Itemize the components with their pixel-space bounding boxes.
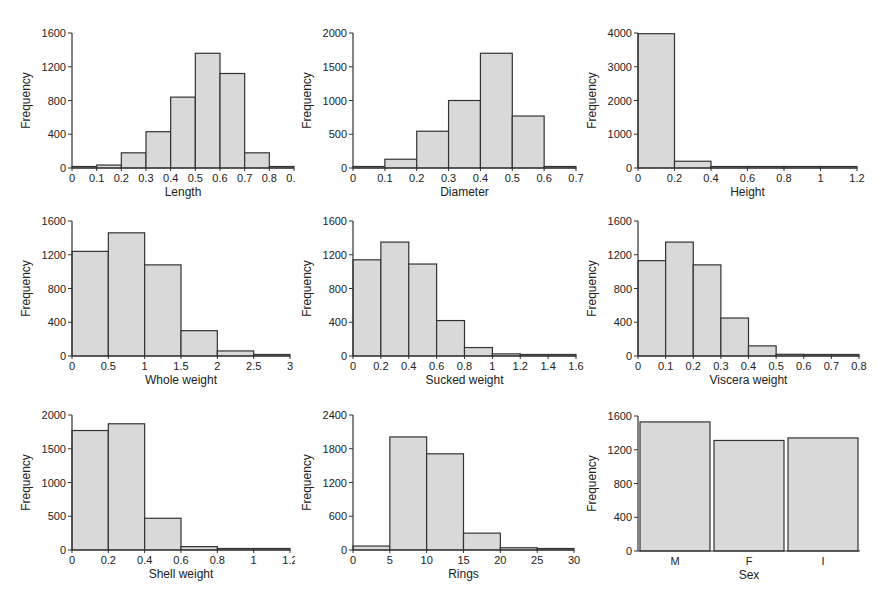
x-tick-label: 0.8 [210, 554, 225, 566]
x-tick-label: 0.2 [409, 172, 424, 184]
x-tick-label: 0.6 [536, 172, 551, 184]
histogram-bar [108, 424, 144, 550]
x-tick-label: 0.8 [457, 360, 472, 372]
x-tick-label: 0.4 [703, 172, 718, 184]
histogram-bar [390, 437, 427, 550]
y-tick-label: 1600 [323, 215, 347, 227]
chart-length: 04008001200160000.10.20.30.40.50.60.70.8… [0, 0, 295, 200]
bars [72, 53, 294, 168]
x-axis-label: Shell weight [149, 567, 214, 581]
y-tick-label: 1000 [608, 128, 632, 140]
x-tick-label: M [670, 555, 679, 567]
histogram-bar [464, 533, 501, 550]
y-tick-label: 1800 [323, 443, 347, 455]
x-tick-label: 0 [350, 554, 356, 566]
bars [638, 242, 859, 356]
x-tick-label: 0 [69, 360, 75, 372]
y-tick-label: 500 [48, 510, 66, 522]
y-tick-label: 400 [614, 511, 632, 523]
y-axis-label: Frequency [585, 455, 599, 512]
bars [353, 53, 576, 168]
y-tick-label: 400 [614, 316, 632, 328]
y-tick-label: 0 [626, 545, 632, 557]
x-tick-label: 0.8 [262, 172, 277, 184]
y-tick-label: 1000 [323, 95, 347, 107]
histogram-bar [721, 318, 749, 356]
x-axis-label: Sucked weight [425, 373, 504, 387]
x-tick-label: 0.2 [667, 172, 682, 184]
bars [353, 437, 574, 550]
y-tick-label: 2000 [42, 409, 66, 421]
y-tick-label: 2000 [608, 95, 632, 107]
y-tick-label: 1200 [323, 249, 347, 261]
histogram-bar [638, 261, 666, 356]
x-tick-label: 25 [531, 554, 543, 566]
histogram-bar [72, 431, 108, 550]
histogram-bar [749, 346, 777, 356]
x-tick-label: 0.6 [796, 360, 811, 372]
bars [640, 422, 858, 551]
x-tick-label: 1 [142, 360, 148, 372]
histogram-bar [427, 454, 464, 550]
x-axis-label: Sex [739, 568, 760, 582]
histogram-bar [171, 97, 196, 168]
y-tick-label: 1200 [608, 249, 632, 261]
y-axis-label: Frequency [19, 72, 33, 129]
x-axis-label: Whole weight [145, 373, 218, 387]
x-tick-label: 0.1 [658, 360, 673, 372]
histogram-bar [480, 53, 512, 168]
bars [353, 242, 576, 356]
x-tick-label: 0.7 [824, 360, 839, 372]
bar-I [788, 438, 858, 551]
x-tick-label: I [821, 555, 824, 567]
y-tick-label: 0 [60, 162, 66, 174]
y-tick-label: 500 [329, 128, 347, 140]
histogram-bar [385, 159, 417, 168]
x-tick-label: 0.4 [137, 554, 152, 566]
y-tick-label: 0 [60, 350, 66, 362]
histogram-bar [195, 53, 220, 168]
x-tick-label: 0.5 [768, 360, 783, 372]
x-tick-label: 1.2 [849, 172, 864, 184]
y-tick-label: 0 [626, 350, 632, 362]
x-tick-label: 30 [568, 554, 580, 566]
chart-rings: 0600120018002400051015202530RingsFrequen… [290, 400, 585, 600]
x-tick-label: 15 [457, 554, 469, 566]
x-tick-label: 0.6 [429, 360, 444, 372]
x-tick-label: 0.1 [89, 172, 104, 184]
y-tick-label: 3000 [608, 61, 632, 73]
x-tick-label: 1 [251, 554, 257, 566]
x-tick-label: 0 [635, 360, 641, 372]
chart-height: 0100020003000400000.20.40.60.811.2Height… [580, 0, 875, 200]
chart-whole-weight: 04008001200160000.511.522.53Whole weight… [0, 200, 295, 400]
x-tick-label: 0 [350, 172, 356, 184]
bar-M [640, 422, 710, 551]
y-tick-label: 1000 [42, 477, 66, 489]
histogram-bar [108, 233, 144, 356]
histogram-bar [417, 131, 449, 168]
histogram-bar [666, 242, 694, 356]
histogram-bar [217, 351, 253, 356]
y-tick-label: 400 [48, 316, 66, 328]
histogram-bar [72, 251, 108, 356]
x-tick-label: 10 [421, 554, 433, 566]
bars [638, 34, 857, 168]
y-axis-label: Frequency [585, 72, 599, 129]
x-tick-label: 0.3 [138, 172, 153, 184]
x-tick-label: 0.5 [188, 172, 203, 184]
y-tick-label: 2400 [323, 409, 347, 421]
y-axis-label: Frequency [300, 260, 314, 317]
x-tick-label: 1 [817, 172, 823, 184]
x-tick-label: 2 [214, 360, 220, 372]
histogram-bar [245, 153, 270, 168]
x-tick-label: 1.4 [540, 360, 555, 372]
y-tick-label: 400 [329, 316, 347, 328]
y-tick-label: 800 [329, 283, 347, 295]
chart-sex: 040080012001600MFISexFrequency [580, 400, 875, 600]
x-tick-label: 0.4 [163, 172, 178, 184]
histogram-bar [675, 161, 712, 168]
chart-viscera-weight: 04008001200160000.10.20.30.40.50.60.70.8… [580, 200, 875, 400]
x-tick-label: 0.2 [101, 554, 116, 566]
bars [72, 233, 290, 356]
x-tick-label: 0.2 [686, 360, 701, 372]
